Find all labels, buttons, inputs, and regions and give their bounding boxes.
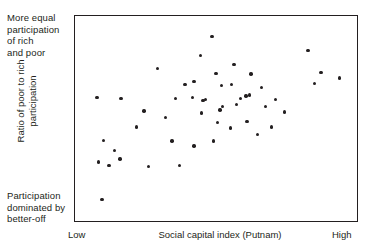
scatter-point xyxy=(201,99,204,102)
scatter-point xyxy=(95,96,98,99)
scatter-point xyxy=(244,94,247,97)
scatter-point xyxy=(249,72,252,75)
scatter-point xyxy=(274,98,277,101)
scatter-point xyxy=(142,109,145,112)
x-axis-tick-high: High xyxy=(332,229,352,240)
y-axis-label-container: Ratio of poor to rich participation xyxy=(4,36,50,166)
scatter-point xyxy=(102,139,105,142)
scatter-point xyxy=(200,111,203,114)
scatter-point xyxy=(119,97,122,100)
scatter-point xyxy=(264,105,267,108)
scatter-point xyxy=(235,103,238,106)
scatter-points-layer xyxy=(75,16,357,221)
scatter-point xyxy=(192,144,195,147)
scatter-point xyxy=(260,86,263,89)
scatter-point xyxy=(97,160,100,163)
scatter-point xyxy=(212,139,215,142)
scatter-point xyxy=(216,121,219,124)
scatter-point xyxy=(229,126,232,129)
scatter-point xyxy=(183,83,186,86)
scatter-point xyxy=(113,149,116,152)
scatter-plot-figure: More equal participation of rich and poo… xyxy=(0,0,369,247)
scatter-point xyxy=(270,125,273,128)
x-axis-tick-low: Low xyxy=(68,229,85,240)
plot-area-frame xyxy=(74,15,358,222)
scatter-point xyxy=(220,84,223,87)
scatter-point xyxy=(135,125,138,128)
x-axis-label: Social capital index (Putnam) xyxy=(120,229,320,240)
scatter-point xyxy=(147,165,150,168)
scatter-point xyxy=(283,110,286,113)
scatter-point xyxy=(306,49,309,52)
scatter-point xyxy=(100,198,103,201)
scatter-point xyxy=(174,97,177,100)
scatter-point xyxy=(156,67,159,70)
scatter-point xyxy=(199,54,202,57)
scatter-point xyxy=(178,164,181,167)
scatter-point xyxy=(170,139,173,142)
annotation-participation-dominated: Participation dominated by better-off xyxy=(7,190,77,225)
scatter-point xyxy=(256,133,259,136)
scatter-point xyxy=(214,72,217,75)
scatter-point xyxy=(192,80,195,83)
scatter-point xyxy=(319,71,322,74)
scatter-point xyxy=(107,164,110,167)
scatter-point xyxy=(232,63,235,66)
scatter-point xyxy=(191,96,194,99)
scatter-point xyxy=(164,116,167,119)
scatter-point xyxy=(248,93,251,96)
scatter-point xyxy=(239,97,242,100)
scatter-point xyxy=(230,83,233,86)
scatter-point xyxy=(245,120,248,123)
y-axis-label: Ratio of poor to rich participation xyxy=(15,60,38,143)
scatter-point xyxy=(218,108,221,111)
scatter-point xyxy=(313,82,316,85)
scatter-point xyxy=(338,76,341,79)
scatter-point xyxy=(118,157,121,160)
scatter-point xyxy=(210,35,213,38)
